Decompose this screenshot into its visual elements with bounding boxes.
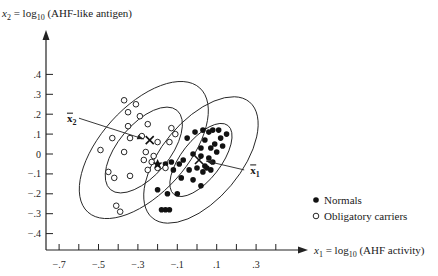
confidence-ellipses (56, 59, 280, 243)
mean-label-1: x1 (250, 164, 260, 179)
x-axis-arrow-icon (298, 247, 308, 254)
point-carrier (149, 159, 155, 165)
y-tick-label: .4 (34, 69, 42, 80)
point-normal (208, 145, 214, 151)
point-normal (194, 165, 200, 171)
legend-marker-normals-icon (313, 197, 319, 203)
point-normal (210, 127, 216, 133)
x-tick-label: −.5 (92, 259, 105, 270)
legend: Normals Obligatory carriers (313, 194, 407, 222)
scatter-chart: −.7−.5−.3−.1.1.3 .4.3.2.10−.1−.2−.3−.4 x… (0, 0, 438, 276)
point-carrier (163, 165, 169, 171)
point-normal (198, 183, 204, 189)
point-normal (200, 169, 206, 175)
point-carrier (155, 139, 161, 145)
point-carrier (125, 123, 131, 129)
y-tick-label: 0 (36, 149, 41, 160)
x-axis-title: x1 = log10 (AHF activity) (313, 244, 425, 259)
point-normal (167, 207, 173, 213)
x-tick-label: −.3 (131, 259, 144, 270)
point-carrier (145, 121, 151, 127)
mean-label-2: x2 (67, 112, 77, 127)
point-carrier (113, 203, 119, 209)
legend-label-normals: Normals (324, 194, 362, 206)
x-tick-label: −.1 (171, 259, 184, 270)
point-carrier (127, 173, 133, 179)
point-normal (169, 159, 175, 165)
point-normal (176, 161, 182, 167)
point-normal (190, 177, 196, 183)
point-normal (202, 137, 208, 143)
point-carrier (109, 135, 115, 141)
point-carrier (167, 139, 173, 145)
point-normal (165, 191, 171, 197)
point-carrier (127, 135, 133, 141)
point-normal (184, 135, 190, 141)
point-normal (198, 145, 204, 151)
point-normal (224, 131, 230, 137)
y-tick-label: −.4 (28, 228, 41, 239)
point-normal (192, 129, 198, 135)
point-normal (180, 157, 186, 163)
point-carrier (121, 149, 127, 155)
point-carrier (98, 147, 104, 153)
legend-label-carriers: Obligatory carriers (324, 210, 407, 222)
point-normal (159, 207, 165, 213)
point-normal (206, 155, 212, 161)
point-carrier (111, 175, 117, 181)
point-normal (200, 127, 206, 133)
point-carrier (121, 97, 127, 103)
y-axis-ticks: .4.3.2.10−.1−.2−.3−.4 (28, 69, 53, 239)
point-normal (171, 167, 177, 173)
point-carrier (169, 125, 175, 131)
point-normal (204, 165, 210, 171)
y-axis-title: x2 = log10 (AHF-like antigen) (1, 7, 132, 22)
y-tick-label: −.1 (28, 168, 41, 179)
point-carrier (173, 131, 179, 137)
point-carrier (117, 209, 123, 215)
point-carrier (125, 109, 131, 115)
point-normal (178, 175, 184, 181)
point-carrier (145, 167, 151, 173)
point-normal (214, 149, 220, 155)
legend-marker-carriers-icon (313, 213, 319, 219)
point-carrier (133, 101, 139, 107)
y-axis-arrow-icon (43, 30, 50, 40)
point-normal (155, 187, 161, 193)
point-normal (218, 135, 224, 141)
y-tick-label: .3 (34, 89, 42, 100)
x-axis-ticks: −.7−.5−.3−.1.1.3 (53, 244, 276, 270)
point-normal (220, 143, 226, 149)
x-tick-label: −.7 (53, 259, 66, 270)
point-carrier (106, 169, 112, 175)
point-carrier (151, 153, 157, 159)
x-tick-label: .3 (252, 259, 260, 270)
point-carrier (137, 113, 143, 119)
point-normal (216, 127, 222, 133)
point-normal (175, 191, 181, 197)
mean-x-marker-icon (146, 136, 154, 144)
x-tick-label: .1 (213, 259, 221, 270)
y-tick-label: .2 (34, 109, 42, 120)
axes (43, 30, 309, 254)
y-tick-label: −.2 (28, 188, 41, 199)
y-tick-label: .1 (34, 129, 42, 140)
point-normal (212, 141, 218, 147)
point-carrier (143, 149, 149, 155)
point-carrier (141, 157, 147, 163)
point-normal (186, 167, 192, 173)
y-tick-label: −.3 (28, 208, 41, 219)
